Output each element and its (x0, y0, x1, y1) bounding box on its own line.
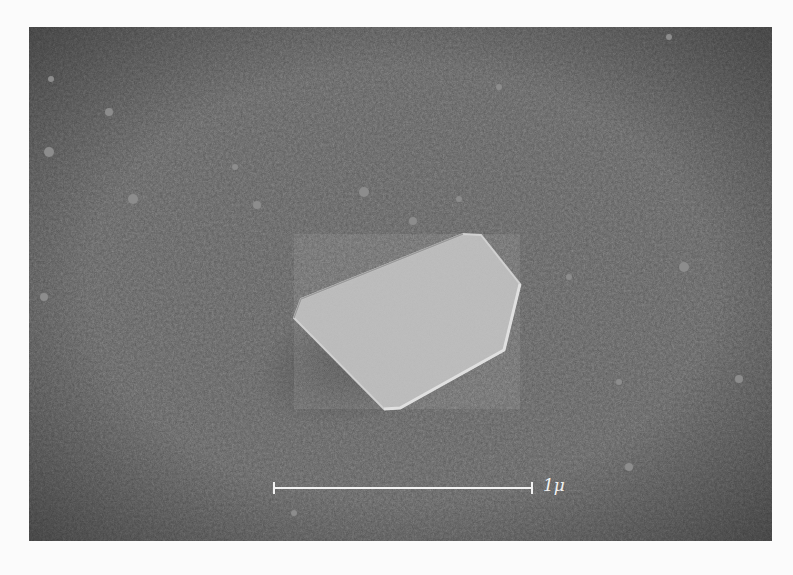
micrograph-image: 1μ (29, 27, 772, 541)
scale-bar-label: 1μ (543, 475, 565, 495)
micrograph-canvas (29, 27, 772, 541)
